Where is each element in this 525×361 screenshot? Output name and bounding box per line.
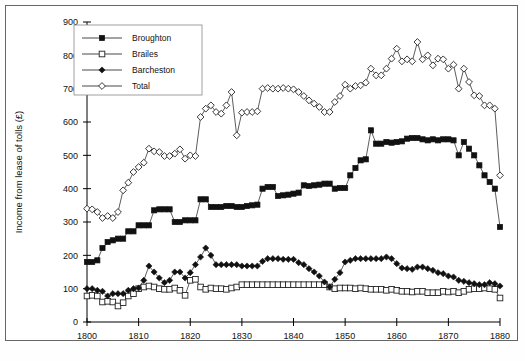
chart-canvas: 0100200300400500600700800900180018101820…	[0, 0, 525, 361]
data-point	[379, 141, 384, 146]
x-tick-label: 1840	[283, 331, 303, 341]
data-point	[445, 65, 452, 72]
data-point	[424, 52, 431, 59]
data-point	[332, 186, 337, 191]
data-point	[461, 139, 466, 144]
data-point	[466, 146, 471, 151]
data-point	[84, 259, 89, 264]
data-point	[425, 138, 430, 143]
data-point	[182, 293, 188, 299]
data-point	[455, 85, 462, 92]
data-point	[476, 93, 483, 100]
data-point	[99, 35, 104, 40]
data-point	[291, 191, 296, 196]
x-tick-label: 1830	[232, 331, 252, 341]
data-point	[368, 65, 375, 72]
data-point	[429, 62, 436, 69]
data-point	[450, 274, 456, 280]
data-point	[141, 277, 147, 283]
data-point	[141, 223, 146, 228]
legend-label: Barcheston	[132, 65, 175, 75]
data-point	[456, 277, 462, 283]
data-point	[188, 218, 193, 223]
data-point	[197, 254, 203, 260]
legend-label: Brailes	[132, 49, 158, 59]
data-point	[404, 266, 410, 272]
data-point	[430, 137, 435, 142]
data-point	[192, 153, 199, 160]
data-point	[296, 190, 301, 195]
data-point	[342, 81, 349, 88]
data-point	[446, 137, 451, 142]
data-point	[419, 56, 426, 63]
data-point	[378, 72, 385, 79]
data-point	[326, 109, 333, 116]
data-point	[327, 181, 332, 186]
data-point	[193, 218, 198, 223]
data-point	[461, 278, 467, 284]
data-point	[136, 223, 141, 228]
data-point	[244, 203, 249, 208]
data-point	[125, 179, 132, 186]
data-point	[348, 173, 353, 178]
data-point	[487, 179, 492, 184]
data-point	[472, 153, 477, 158]
data-point	[250, 203, 255, 208]
data-point	[466, 79, 473, 86]
data-point	[255, 202, 260, 207]
data-point	[254, 108, 261, 115]
data-point	[229, 203, 234, 208]
data-point	[203, 245, 209, 251]
data-point	[270, 184, 275, 189]
data-point	[110, 238, 115, 243]
data-point	[363, 157, 368, 162]
x-tick-label: 1870	[438, 331, 458, 341]
data-point	[219, 204, 224, 209]
x-tick-label: 1860	[387, 331, 407, 341]
y-tick-label: 600	[63, 117, 78, 127]
data-point	[233, 132, 240, 139]
data-point	[172, 219, 177, 224]
data-point	[120, 300, 126, 306]
data-point	[234, 204, 239, 209]
data-point	[157, 207, 162, 212]
data-point	[281, 193, 286, 198]
data-point	[497, 224, 502, 229]
data-point	[100, 245, 105, 250]
line-chart: 0100200300400500600700800900180018101820…	[0, 0, 525, 361]
y-tick-label: 400	[63, 184, 78, 194]
data-point	[456, 153, 461, 158]
data-point	[239, 204, 244, 209]
data-point	[126, 229, 131, 234]
data-point	[497, 295, 503, 301]
data-point	[275, 256, 281, 262]
data-point	[393, 45, 400, 52]
data-point	[414, 39, 421, 46]
data-point	[192, 262, 198, 268]
data-point	[312, 183, 317, 188]
data-point	[368, 128, 373, 133]
data-point	[152, 208, 157, 213]
data-point	[450, 61, 457, 68]
data-point	[353, 165, 358, 170]
data-point	[301, 183, 306, 188]
x-tick-label: 1810	[129, 331, 149, 341]
data-point	[420, 137, 425, 142]
data-point	[213, 204, 218, 209]
series-brailes	[84, 277, 503, 309]
data-point	[177, 219, 182, 224]
data-point	[131, 229, 136, 234]
data-point	[383, 65, 390, 72]
data-point	[389, 140, 394, 145]
data-point	[90, 259, 95, 264]
data-point	[290, 256, 296, 262]
data-point	[193, 277, 199, 283]
data-point	[410, 135, 415, 140]
y-tick-label: 500	[63, 151, 78, 161]
data-point	[121, 236, 126, 241]
data-point	[497, 172, 504, 179]
data-point	[95, 258, 100, 263]
chart-legend: BroughtonBrailesBarchestonTotal	[74, 25, 202, 95]
data-point	[322, 181, 327, 186]
data-point	[317, 182, 322, 187]
